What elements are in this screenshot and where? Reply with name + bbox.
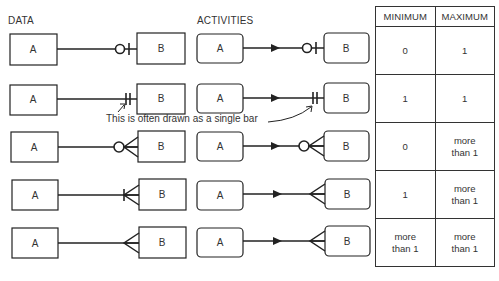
zero-circle-icon [303, 44, 312, 53]
zero-circle-icon [116, 45, 125, 54]
maximum-value: more than 1 [445, 135, 485, 159]
annotation-pointer-right [268, 107, 311, 122]
entity-a-label: A [30, 44, 37, 55]
minimum-cell: more than 1 [376, 219, 436, 267]
entity-b-label: B [343, 43, 350, 54]
entity-b-label: B [344, 236, 351, 247]
entity-b-label: B [159, 237, 166, 248]
minimum-value: more than 1 [385, 231, 425, 255]
minimum-cell: 1 [376, 75, 436, 123]
maximum-cell: more than 1 [435, 123, 495, 171]
cardinality-table: MINIMUM MAXIMUM 0 1 1 1 0 more than 1 1 … [375, 6, 495, 267]
entity-b-label: B [343, 141, 350, 152]
arrow-icon [271, 44, 280, 52]
maximum-column-header: MAXIMUM [435, 7, 495, 27]
entity-a-label: A [30, 94, 37, 105]
maximum-value: more than 1 [445, 231, 485, 255]
maximum-value: more than 1 [445, 183, 485, 207]
entity-b-label: B [159, 189, 166, 200]
entity-a-label: A [217, 141, 224, 152]
entity-b-label: B [158, 141, 165, 152]
entity-a-label: A [32, 238, 39, 249]
entity-a-label: A [217, 43, 224, 54]
crows-foot-icon [124, 233, 139, 253]
entity-a-label: A [32, 190, 39, 201]
minimum-cell: 0 [376, 27, 436, 75]
maximum-cell: 1 [435, 75, 495, 123]
table-row: 0 more than 1 [376, 123, 495, 171]
table-row: 1 1 [376, 75, 495, 123]
single-bar-annotation: This is often drawn as a single bar [106, 113, 258, 124]
maximum-cell: more than 1 [435, 171, 495, 219]
entity-a-label: A [31, 142, 38, 153]
zero-circle-icon [114, 142, 124, 152]
entity-a-label: A [217, 237, 224, 248]
entity-b-label: B [343, 93, 350, 104]
minimum-cell: 1 [376, 171, 436, 219]
entity-a-label: A [217, 190, 224, 201]
entity-b-label: B [344, 189, 351, 200]
maximum-cell: more than 1 [435, 219, 495, 267]
crows-foot-icon [124, 185, 139, 205]
table-row: 1 more than 1 [376, 171, 495, 219]
entity-a-label: A [217, 93, 224, 104]
annotation-pointer-left [118, 105, 124, 112]
table-row: more than 1 more than 1 [376, 219, 495, 267]
entity-b-label: B [158, 43, 165, 54]
minimum-cell: 0 [376, 123, 436, 171]
crows-foot-icon [124, 137, 138, 157]
minimum-column-header: MINIMUM [376, 7, 436, 27]
entity-b-label: B [158, 93, 165, 104]
maximum-cell: 1 [435, 27, 495, 75]
table-row: 0 1 [376, 27, 495, 75]
